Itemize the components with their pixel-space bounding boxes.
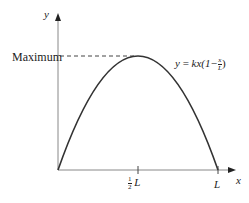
equation-eq: = — [183, 57, 189, 69]
x-axis-arrow-icon — [228, 167, 236, 173]
equation-rhs-prefix: kx(1− — [192, 57, 218, 69]
maximum-label: Maximum — [12, 51, 62, 63]
equation-rhs-suffix: ) — [222, 57, 226, 69]
y-axis-label: y — [44, 9, 49, 20]
parabola-curve — [58, 56, 218, 170]
equation-lhs: y — [175, 57, 180, 69]
half-L-var: L — [134, 176, 140, 188]
y-axis-arrow-icon — [55, 13, 61, 21]
equation-label: y = kx(1−xL) — [175, 57, 226, 72]
tick-label-half-L: 12 L — [128, 176, 140, 191]
diagram-canvas — [0, 0, 249, 203]
half-denominator: 2 — [128, 184, 132, 191]
half-fraction: 12 — [128, 176, 132, 191]
tick-label-L: L — [214, 179, 220, 190]
x-axis-label: x — [236, 175, 241, 186]
